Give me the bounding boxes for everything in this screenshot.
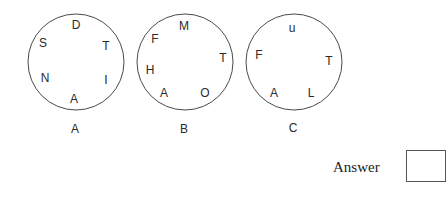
circle-letter: S	[39, 36, 47, 50]
circle-letter: O	[200, 86, 209, 100]
circle-letter: N	[41, 71, 50, 85]
circle-letter: A	[270, 86, 278, 100]
circle-letter: M	[179, 19, 189, 33]
circle-group-b: MTOAHFB	[137, 14, 233, 136]
circle-label: B	[180, 122, 188, 136]
circle-label: C	[289, 121, 298, 135]
circle-group-a: DTIANSA	[28, 14, 124, 136]
circle-letter: L	[308, 86, 315, 100]
circle-letter: F	[255, 48, 262, 62]
circle-letter: F	[151, 32, 158, 46]
circle-label: A	[71, 122, 79, 136]
circle-letter: A	[70, 92, 78, 106]
circle-letter: T	[219, 51, 227, 65]
circle-letter: u	[289, 21, 296, 35]
answer-box[interactable]	[406, 150, 446, 182]
answer-label: Answer	[333, 157, 380, 177]
circle-letter: I	[104, 73, 107, 87]
circle-group-c: uTLAFC	[246, 14, 342, 135]
circle-letter: H	[146, 63, 155, 77]
circle-letter: T	[325, 54, 333, 68]
circle-letter: T	[102, 39, 110, 53]
circle-letter: A	[160, 86, 168, 100]
circle-letter: D	[72, 18, 81, 32]
